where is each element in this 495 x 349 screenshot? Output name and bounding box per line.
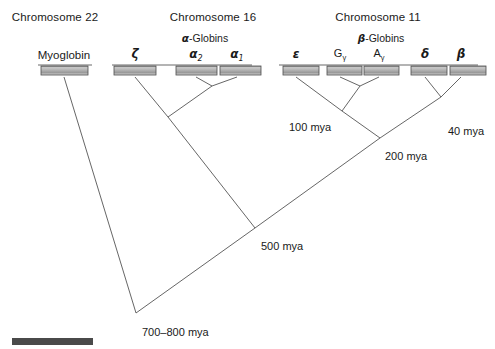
branch-beta	[441, 77, 461, 97]
globin-phylogeny-figure: Chromosome 22Chromosome 16Chromosome 11 …	[0, 0, 495, 349]
family-label-beta-globins: β-Globins	[358, 33, 405, 44]
divergence-label-node-100: 100 mya	[289, 122, 331, 133]
gene-subscript: 2	[198, 54, 203, 63]
divergence-label-node-40: 40 mya	[448, 126, 484, 137]
gene-subscript: 1	[239, 54, 244, 63]
branch-a-gamma	[360, 77, 379, 86]
divergence-label-node-root: 700–800 mya	[142, 327, 209, 338]
gene-label-delta: δ	[421, 48, 429, 60]
box-alpha2	[176, 66, 217, 75]
branch-root	[136, 228, 255, 313]
branch-eg-stem	[342, 111, 380, 138]
gene-label-zeta: ζ	[131, 48, 138, 60]
family-greek-symbol: β	[358, 32, 366, 44]
branch-beta-family-stem	[255, 138, 380, 228]
family-suffix: -Globins	[189, 32, 228, 44]
gene-symbol: α	[230, 47, 238, 61]
box-myoglobin	[41, 66, 88, 75]
box-delta	[411, 66, 447, 75]
family-label-alpha-globins: α-Globins	[182, 33, 228, 44]
branch-alpha2	[196, 77, 212, 86]
divergence-label-node-200: 200 mya	[385, 151, 427, 162]
gene-subscript: γ	[342, 53, 346, 62]
gene-symbol: ζ	[131, 47, 138, 61]
gene-symbol: ε	[293, 47, 300, 61]
branch-epsilon	[296, 77, 342, 111]
branch-gamma-pair	[342, 86, 360, 111]
box-beta	[450, 66, 486, 75]
gene-subscript: γ	[381, 53, 385, 62]
branch-g-gamma	[340, 77, 360, 86]
divergence-label-node-500: 500 mya	[261, 241, 303, 252]
branch-myoglobin	[64, 77, 136, 313]
gene-symbol: G	[334, 47, 343, 59]
gene-label-myoglobin: Myoglobin	[38, 50, 90, 62]
gene-label-alpha1: α1	[230, 48, 243, 63]
branch-delta	[425, 77, 441, 97]
box-g-gamma	[327, 66, 362, 75]
gene-label-alpha2: α2	[189, 48, 202, 63]
chromosome-header-chr22: Chromosome 22	[12, 12, 98, 24]
branch-zeta	[135, 77, 168, 117]
branch-alpha1	[212, 77, 237, 86]
branch-db-stem	[380, 97, 441, 138]
gene-label-a-gamma: Aγ	[373, 48, 384, 62]
gene-label-epsilon: ε	[293, 48, 300, 60]
branch-alpha-pair	[168, 86, 212, 117]
gene-symbol: δ	[421, 47, 429, 61]
tree-branches-group	[64, 77, 461, 313]
box-zeta	[114, 66, 156, 75]
box-a-gamma	[364, 66, 399, 75]
branch-alpha-stem	[168, 117, 255, 228]
gene-label-beta: β	[457, 48, 466, 60]
box-epsilon	[283, 66, 319, 75]
gene-boxes-group	[41, 66, 486, 75]
gene-symbol: Myoglobin	[38, 49, 90, 61]
family-suffix: -Globins	[365, 32, 404, 44]
scale-bar	[12, 338, 93, 345]
chromosome-header-chr11: Chromosome 11	[335, 12, 420, 24]
gene-symbol: β	[457, 47, 466, 61]
gene-symbol: α	[189, 47, 197, 61]
box-alpha1	[220, 66, 261, 75]
gene-label-g-gamma: Gγ	[334, 48, 346, 62]
chromosome-header-chr16: Chromosome 16	[170, 12, 256, 24]
